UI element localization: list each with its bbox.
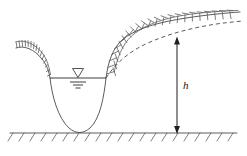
cross-section-diagram: h xyxy=(0,0,247,156)
depth-dimension-label: h xyxy=(183,79,189,91)
hatch-tick xyxy=(168,15,174,24)
hatch-tick xyxy=(112,47,121,54)
figure-root: h xyxy=(0,0,247,156)
hatch-tick xyxy=(115,41,123,48)
drawdown-curve-dashed xyxy=(106,21,243,78)
depth-dimension-arrow xyxy=(174,37,180,135)
bedrock-hatch-marks xyxy=(8,133,233,141)
hatch-tick xyxy=(219,11,225,20)
left-slope-hatch-marks xyxy=(16,40,51,76)
ground-surface-profile xyxy=(16,12,240,133)
hatch-tick xyxy=(129,27,136,35)
hatch-tick xyxy=(227,10,233,18)
hatch-tick xyxy=(175,14,181,23)
